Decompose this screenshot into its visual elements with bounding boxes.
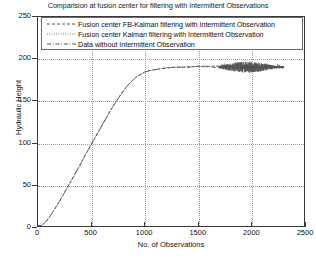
x-tick-label: 1000 <box>136 229 153 237</box>
x-tick-label: 2000 <box>243 229 260 237</box>
legend-label: Fusion center FB-Kalman filtering with I… <box>78 20 275 29</box>
y-tick-label: 50 <box>23 181 31 189</box>
x-tick-label: 500 <box>84 229 97 237</box>
legend-item: Data without Intermittent Observation <box>42 39 302 49</box>
y-tick-mark <box>32 143 37 144</box>
y-tick-mark <box>32 100 37 101</box>
legend-line-sample <box>45 20 78 28</box>
x-tick-mark <box>91 222 92 227</box>
x-tick-label: 2500 <box>297 229 314 237</box>
legend-line-sample <box>45 30 78 38</box>
x-tick-mark <box>37 222 38 227</box>
legend-line-sample <box>45 40 78 48</box>
data-series-line <box>38 64 283 226</box>
y-tick-mark <box>32 16 37 17</box>
legend-label: Fusion center Kalman filtering with Inte… <box>78 30 264 39</box>
x-tick-mark <box>251 222 252 227</box>
y-tick-label: 250 <box>18 12 31 20</box>
x-tick-label: 0 <box>35 229 39 237</box>
legend-item: Fusion center Kalman filtering with Inte… <box>42 29 302 39</box>
y-tick-mark <box>32 58 37 59</box>
legend-item: Fusion center FB-Kalman filtering with I… <box>42 19 302 29</box>
x-tick-mark <box>198 222 199 227</box>
y-tick-label: 0 <box>27 223 31 231</box>
data-series-line <box>38 63 283 226</box>
y-tick-mark <box>32 185 37 186</box>
legend-label: Data without Intermittent Observation <box>78 40 195 49</box>
x-tick-mark <box>144 222 145 227</box>
chart-figure: Comparision at fusion center for filteri… <box>0 0 316 265</box>
data-series-line <box>38 65 283 226</box>
chart-legend: Fusion center FB-Kalman filtering with I… <box>41 17 303 50</box>
x-tick-mark <box>305 222 306 227</box>
x-axis-label: No. of Observations <box>37 240 305 249</box>
x-tick-label: 1500 <box>189 229 206 237</box>
y-axis-label: Hydraulic Height <box>14 38 23 178</box>
chart-title: Comparision at fusion center for filteri… <box>0 1 316 10</box>
